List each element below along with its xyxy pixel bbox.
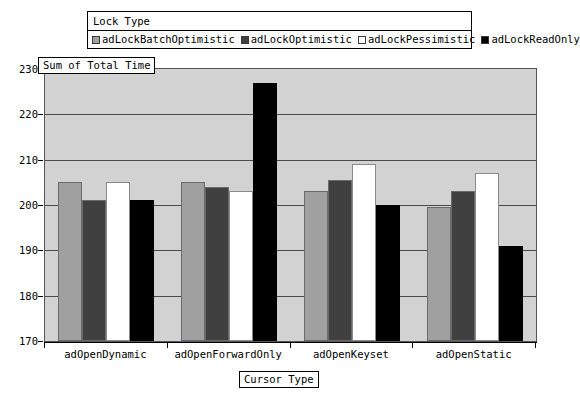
x-axis-line — [44, 342, 537, 343]
bar[interactable] — [475, 173, 499, 341]
x-axis-title: Cursor Type — [239, 371, 319, 388]
y-axis-tick-marks — [0, 68, 44, 343]
legend-item-label: adLockBatchOptimistic — [102, 33, 235, 46]
chart-legend: Lock Type adLockBatchOptimistic adLockOp… — [87, 11, 472, 49]
y-axis-tick-mark — [38, 114, 43, 115]
legend-swatch-icon — [358, 36, 366, 44]
y-axis-tick-mark — [38, 296, 43, 297]
y-axis-tick-mark — [38, 250, 43, 251]
bar[interactable] — [451, 191, 475, 341]
bar[interactable] — [376, 205, 400, 341]
x-axis-category-label: adOpenForwardOnly — [167, 348, 290, 361]
plot-area — [44, 68, 537, 342]
bar[interactable] — [106, 182, 130, 341]
legend-item-adlockpessimistic[interactable]: adLockPessimistic — [358, 33, 475, 46]
legend-item-label: adLockReadOnly — [491, 33, 580, 46]
x-axis-category-label: adOpenKeyset — [290, 348, 413, 361]
x-axis-tick-mark — [535, 343, 536, 348]
bar[interactable] — [427, 207, 451, 341]
y-axis-title: Sum of Total Time — [38, 57, 155, 74]
bar[interactable] — [328, 180, 352, 341]
legend-items: adLockBatchOptimistic adLockOptimistic a… — [88, 31, 471, 48]
bar-group — [181, 69, 277, 341]
bar[interactable] — [82, 200, 106, 341]
x-axis-category-label: adOpenStatic — [412, 348, 535, 361]
bar-group — [58, 69, 154, 341]
bar[interactable] — [130, 200, 154, 341]
legend-item-label: adLockPessimistic — [368, 33, 475, 46]
legend-title: Lock Type — [88, 12, 471, 31]
y-axis-tick-mark — [38, 205, 43, 206]
y-axis-tick-mark — [38, 160, 43, 161]
legend-swatch-icon — [481, 36, 489, 44]
x-axis-category-label: adOpenDynamic — [44, 348, 167, 361]
bar[interactable] — [181, 182, 205, 341]
bar-group — [427, 69, 523, 341]
bars-layer — [45, 69, 536, 341]
legend-item-adlockoptimistic[interactable]: adLockOptimistic — [241, 33, 352, 46]
legend-item-label: adLockOptimistic — [251, 33, 352, 46]
legend-item-adlockreadonly[interactable]: adLockReadOnly — [481, 33, 580, 46]
legend-swatch-icon — [241, 36, 249, 44]
bar[interactable] — [58, 182, 82, 341]
legend-item-adlockbatchoptimistic[interactable]: adLockBatchOptimistic — [92, 33, 235, 46]
bar[interactable] — [352, 164, 376, 341]
bar[interactable] — [253, 83, 277, 341]
bar[interactable] — [205, 187, 229, 341]
legend-swatch-icon — [92, 36, 100, 44]
bar-group — [304, 69, 400, 341]
bar[interactable] — [229, 191, 253, 341]
y-axis-tick-mark — [38, 341, 43, 342]
bar[interactable] — [499, 246, 523, 341]
bar[interactable] — [304, 191, 328, 341]
